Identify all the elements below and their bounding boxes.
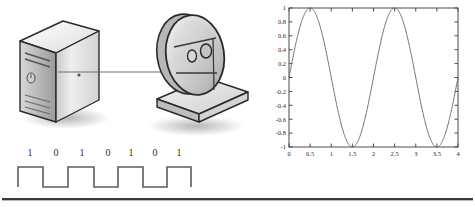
x-tick-label: 1.5 (348, 150, 356, 157)
square-wave-path (18, 167, 191, 187)
y-tick-label: 0.8 (278, 18, 286, 25)
x-tick-label: 3 (414, 150, 417, 157)
bit-label: 0 (102, 146, 114, 160)
x-tick-label: 3.5 (433, 150, 441, 157)
bit-label: 1 (76, 146, 88, 160)
y-tick-label: -0.8 (276, 129, 286, 136)
server-led-icon (77, 73, 80, 76)
y-tick-label: -0.6 (276, 116, 287, 123)
x-tick-label: 0.5 (306, 150, 314, 157)
y-tick-label: -0.2 (276, 88, 286, 95)
x-tick-label: 1 (330, 150, 333, 157)
bit-label: 1 (173, 146, 185, 160)
x-tick-label: 0 (287, 150, 290, 157)
dish-feed-horn-large (201, 44, 212, 58)
y-tick-label: 0.6 (278, 32, 287, 39)
y-tick-label: 0.2 (278, 60, 286, 67)
square-wave-trace (10, 161, 205, 192)
y-tick-label: -0.4 (276, 102, 287, 109)
x-axis-tick-labels: 00.511.522.533.54 (287, 150, 460, 157)
sine-plot: 00.511.522.533.54 10.80.60.40.20-0.2-0.4… (262, 2, 467, 162)
satellite-dish (152, 10, 248, 122)
bit-label: 1 (125, 146, 137, 160)
bit-label: 0 (50, 146, 62, 160)
digital-waveform-group: 1 0 1 0 1 0 1 (10, 146, 205, 192)
x-tick-label: 2.5 (391, 150, 399, 157)
bit-label-row: 1 0 1 0 1 0 1 (10, 146, 205, 162)
y-tick-label: -1 (281, 143, 286, 150)
dish-feed-horn-small (188, 50, 197, 62)
y-tick-label: 0.4 (278, 46, 287, 53)
bit-label: 1 (24, 146, 36, 160)
x-tick-label: 2 (372, 150, 375, 157)
y-tick-label: 1 (283, 4, 286, 11)
bit-label: 0 (149, 146, 161, 160)
y-tick-label: 0 (283, 74, 286, 81)
x-tick-label: 4 (456, 150, 460, 157)
bottom-divider-shadow (2, 200, 473, 201)
figure-canvas: 1 0 1 0 1 0 1 00.511.522.533.54 10.80.60… (0, 0, 475, 207)
illustration-group (0, 0, 250, 145)
y-axis-tick-labels: 10.80.60.40.20-0.2-0.4-0.6-0.8-1 (276, 4, 287, 150)
